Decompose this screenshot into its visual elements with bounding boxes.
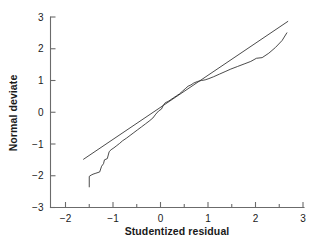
y-tick-label: 0 [38,107,44,118]
x-tick-label: 0 [158,213,164,224]
y-tick-label: −3 [32,202,44,213]
normal-probability-plot: −3−2−10123 −2−10123 Studentized residual… [0,0,326,243]
x-tick-label: −1 [107,213,119,224]
y-tick-label: 2 [38,43,44,54]
x-axis-title: Studentized residual [125,225,230,237]
chart-background [0,0,326,243]
x-tick-label: 1 [205,213,211,224]
y-tick-label: −2 [32,170,44,181]
x-tick-label: −2 [60,213,72,224]
y-tick-label: −1 [32,139,44,150]
y-tick-label: 1 [38,75,44,86]
y-tick-label: 3 [38,12,44,23]
x-tick-label: 3 [300,213,306,224]
x-tick-label: 2 [253,213,259,224]
y-axis-title: Normal deviate [7,75,19,152]
